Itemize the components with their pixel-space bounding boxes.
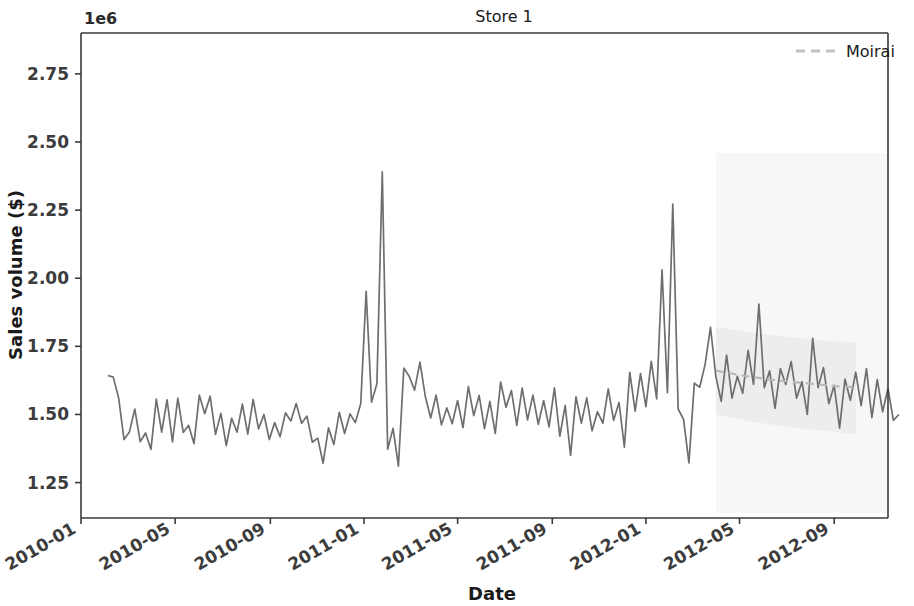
x-tick-label: 2011-09 [473, 518, 551, 574]
line-chart: 1.251.501.752.002.252.502.75 2010-012010… [0, 0, 914, 606]
x-axis: 2010-012010-052010-092011-012011-052011-… [1, 518, 834, 574]
y-tick-label: 1.50 [27, 404, 69, 424]
x-tick-label: 2010-01 [1, 518, 79, 574]
y-tick-label: 1.75 [27, 336, 69, 356]
y-tick-label: 2.00 [27, 268, 69, 288]
x-tick-label: 2012-01 [566, 518, 644, 574]
legend-label-moirai: Moirai [846, 42, 895, 61]
x-tick-label: 2011-01 [284, 518, 362, 574]
x-tick-label: 2011-05 [378, 518, 456, 574]
x-tick-label: 2010-05 [96, 518, 174, 574]
forecast-confidence-band [716, 153, 888, 513]
y-tick-label: 2.50 [27, 132, 69, 152]
chart-title: Store 1 [475, 7, 533, 26]
x-tick-label: 2012-09 [755, 518, 833, 574]
y-axis: 1.251.501.752.002.252.502.75 [27, 64, 81, 493]
x-axis-title: Date [468, 583, 516, 604]
figure-canvas: 1.251.501.752.002.252.502.75 2010-012010… [0, 0, 914, 606]
x-tick-label: 2012-05 [660, 518, 738, 574]
y-tick-label: 2.25 [27, 200, 69, 220]
y-axis-title: Sales volume ($) [5, 190, 26, 360]
y-tick-label: 2.75 [27, 64, 69, 84]
x-tick-label: 2010-09 [191, 518, 269, 574]
y-axis-offset-label: 1e6 [84, 9, 117, 28]
y-tick-label: 1.25 [27, 473, 69, 493]
